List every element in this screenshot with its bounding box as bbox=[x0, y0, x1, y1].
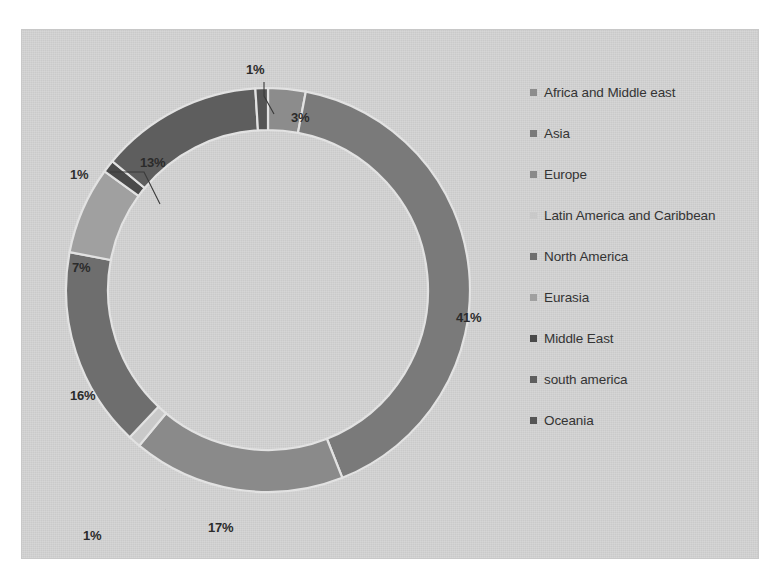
donut-chart: 1% 3% 41% 17% 1% 16% 7% 1% 13% bbox=[48, 70, 488, 510]
legend-item[interactable]: Europe bbox=[530, 167, 765, 183]
legend-swatch-icon bbox=[530, 89, 537, 96]
slice-label-latin-america: 1% bbox=[83, 528, 101, 543]
donut-slice[interactable] bbox=[139, 413, 342, 492]
slice-label-eurasia: 7% bbox=[72, 260, 90, 275]
chart-root: 1% 3% 41% 17% 1% 16% 7% 1% 13% Africa an… bbox=[0, 0, 781, 582]
legend-swatch-icon bbox=[530, 171, 537, 178]
legend-item-label: Europe bbox=[544, 167, 587, 183]
donut-slice[interactable] bbox=[66, 252, 158, 437]
slice-label-europe: 17% bbox=[208, 520, 233, 535]
legend-item-label: Middle East bbox=[544, 331, 613, 347]
slice-label-africa-middle-east: 3% bbox=[291, 110, 309, 125]
legend-item[interactable]: North America bbox=[530, 249, 765, 265]
legend-item-label: Eurasia bbox=[544, 290, 589, 306]
legend-swatch-icon bbox=[530, 335, 537, 342]
slice-label-south-america: 13% bbox=[140, 155, 165, 170]
legend-swatch-icon bbox=[530, 417, 537, 424]
legend-item-label: south america bbox=[544, 372, 628, 388]
slice-label-north-america: 16% bbox=[70, 388, 95, 403]
legend-swatch-icon bbox=[530, 376, 537, 383]
legend-item-label: Latin America and Caribbean bbox=[544, 208, 715, 224]
donut-slice[interactable] bbox=[112, 88, 258, 188]
donut-slice-group bbox=[66, 88, 470, 492]
legend-swatch-icon bbox=[530, 212, 537, 219]
legend-item[interactable]: Africa and Middle east bbox=[530, 85, 765, 101]
legend-item-label: Africa and Middle east bbox=[544, 85, 675, 101]
chart-legend: Africa and Middle eastAsiaEuropeLatin Am… bbox=[530, 85, 765, 454]
slice-label-asia: 41% bbox=[456, 310, 481, 325]
chart-plot-area: 1% 3% 41% 17% 1% 16% 7% 1% 13% Africa an… bbox=[22, 30, 758, 558]
legend-swatch-icon bbox=[530, 253, 537, 260]
legend-item[interactable]: Asia bbox=[530, 126, 765, 142]
legend-item[interactable]: Oceania bbox=[530, 413, 765, 429]
legend-item-label: North America bbox=[544, 249, 628, 265]
legend-item[interactable]: Middle East bbox=[530, 331, 765, 347]
legend-item-label: Oceania bbox=[544, 413, 594, 429]
legend-item[interactable]: Eurasia bbox=[530, 290, 765, 306]
legend-item-label: Asia bbox=[544, 126, 570, 142]
donut-slice[interactable] bbox=[255, 88, 268, 130]
legend-item[interactable]: Latin America and Caribbean bbox=[530, 208, 765, 224]
legend-swatch-icon bbox=[530, 130, 537, 137]
legend-item[interactable]: south america bbox=[530, 372, 765, 388]
donut-svg bbox=[48, 70, 488, 510]
slice-label-oceania: 1% bbox=[246, 62, 264, 77]
legend-swatch-icon bbox=[530, 294, 537, 301]
donut-slice[interactable] bbox=[298, 92, 470, 478]
slice-label-middle-east: 1% bbox=[70, 167, 88, 182]
